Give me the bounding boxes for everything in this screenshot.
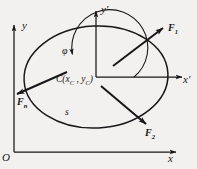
force-fn-letter: F: [17, 96, 24, 107]
force-fn-label: Fn: [17, 97, 27, 110]
body-x-axis-label: x′: [183, 74, 190, 85]
force-f2-subscript: 2: [152, 133, 155, 140]
force-vector-f2: [101, 86, 146, 124]
body-y-axis-prime: ′: [106, 3, 108, 15]
boundary-curve-label: s: [65, 108, 69, 118]
force-fn-subscript: n: [24, 102, 28, 109]
global-y-axis-label: y: [22, 20, 27, 31]
phi-arc: [72, 10, 148, 77]
force-f1-label: F1: [168, 23, 178, 36]
force-f2-letter: F: [145, 127, 152, 138]
origin-label: O: [2, 152, 10, 163]
f2-arrow: [101, 86, 146, 124]
body-x-axis-prime: ′: [188, 73, 190, 85]
force-f2-label: F2: [145, 128, 155, 141]
rotation-angle-label: φ: [62, 46, 68, 56]
body-axes: [96, 11, 182, 77]
force-f1-subscript: 1: [175, 28, 178, 35]
global-x-axis-label: x: [168, 153, 173, 164]
rigid-body-force-diagram: y x O y′ x′ φ s C(xC , yC) F1 F2 Fn: [0, 0, 197, 169]
centroid-label: C(xC , yC): [56, 75, 93, 86]
centroid-close: ): [90, 74, 93, 84]
rotation-angle-arc: [72, 10, 148, 77]
centroid-open: C(: [56, 74, 66, 84]
body-y-axis-label: y′: [101, 4, 108, 15]
force-f1-letter: F: [168, 22, 175, 33]
